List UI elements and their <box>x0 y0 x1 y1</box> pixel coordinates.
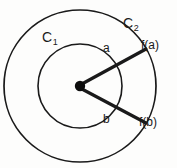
ray-upper-a-to-fa <box>80 49 146 85</box>
label-outer-circle-c2-base: C <box>123 15 133 31</box>
label-inner-circle-c1-base: C <box>42 29 52 45</box>
label-image-fb: f(b) <box>139 116 157 128</box>
label-inner-circle-c1-subscript: 1 <box>53 37 58 47</box>
label-outer-circle-c2: C2 <box>123 16 138 30</box>
figure-canvas: C1 C2 a b f(a) f(b) <box>0 0 177 168</box>
diagram-svg <box>0 0 177 168</box>
label-inner-circle-c1: C1 <box>42 30 57 44</box>
label-point-a: a <box>103 42 110 54</box>
label-point-b: b <box>103 113 110 125</box>
center-point-dot <box>75 81 85 91</box>
ray-lower-b-to-fb <box>80 88 146 123</box>
label-outer-circle-c2-subscript: 2 <box>134 23 139 33</box>
label-image-fa: f(a) <box>141 39 159 51</box>
